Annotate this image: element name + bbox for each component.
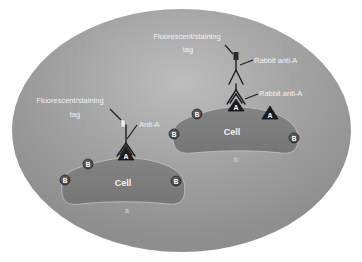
svg-text:A: A: [267, 112, 272, 119]
panel-a-caption: a: [125, 207, 129, 214]
antigen-b-icon: B: [60, 175, 70, 185]
panel-b-caption: b: [234, 156, 238, 163]
cell-a-label: Cell: [115, 178, 132, 188]
antigen-b-icon: B: [171, 176, 181, 186]
tag-a-label-line2: tag: [70, 110, 80, 119]
antigen-b-icon: B: [192, 109, 202, 119]
antigen-b-icon: B: [169, 129, 179, 139]
svg-text:B: B: [63, 177, 68, 184]
svg-text:B: B: [292, 135, 297, 142]
immunostaining-diagram: Cell a B B B A: [0, 0, 362, 262]
svg-text:B: B: [174, 178, 179, 185]
svg-text:B: B: [195, 111, 200, 118]
secondary-antibody-label: Rabbit anti-A: [254, 56, 297, 65]
svg-text:A: A: [123, 153, 128, 160]
anti-a-label: Anti-A: [139, 120, 159, 129]
fluorescent-tag-icon: [121, 120, 125, 127]
antigen-b-icon: B: [83, 159, 93, 169]
antigen-b-icon: B: [289, 133, 299, 143]
svg-text:B: B: [172, 131, 177, 138]
tag-a-label-line1: Fluorescent/staining: [36, 96, 103, 105]
primary-antibody-label: Rabbit anti-A: [259, 89, 302, 98]
svg-text:B: B: [86, 161, 91, 168]
tag-b-label-line2: tag: [183, 45, 193, 54]
tag-b-label-line1: Fluorescent/staining: [153, 32, 220, 41]
fluorescent-tag-icon: [234, 52, 239, 60]
svg-text:A: A: [233, 104, 238, 111]
cell-b-label: Cell: [224, 127, 241, 137]
